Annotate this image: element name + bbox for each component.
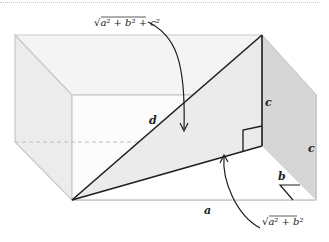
base-diagonal-formula: √a² + b²: [262, 216, 304, 227]
space-diagonal-formula: √a² + b² + c²: [94, 17, 160, 28]
label-d: d: [149, 114, 157, 127]
label-c-inner: c: [265, 96, 272, 109]
label-b: b: [278, 170, 286, 183]
label-c-outer: c: [308, 142, 315, 155]
label-a: a: [204, 204, 211, 217]
box-diagram: √a² + b² + c² d c c b a √a² + b²: [0, 0, 329, 242]
